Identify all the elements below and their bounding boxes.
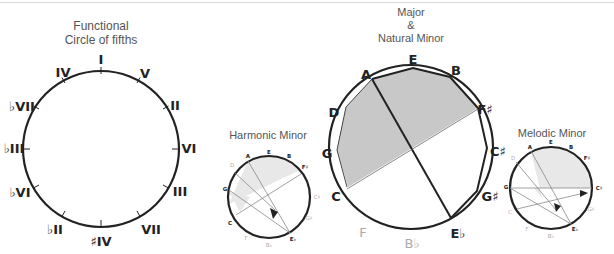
melodic-arrowhead-2	[580, 190, 588, 197]
functional-label-V: V	[140, 66, 150, 81]
functional-label-I: I	[99, 52, 104, 67]
functional-label-sharp-IV: ♯IV	[90, 234, 111, 249]
major-label-B: B	[451, 63, 461, 78]
major-label-C: C	[331, 189, 341, 204]
major-label-F: F	[359, 225, 366, 240]
functional-label-IV: IV	[56, 65, 71, 80]
melodic-label-E: E	[549, 139, 553, 145]
melodic-label-G: G	[504, 184, 509, 190]
major-label-Fsharp: F♯	[477, 102, 492, 117]
harmonic-label-D: D	[230, 162, 234, 168]
functional-circle-diagram: Functional Circle of fifths I V II VI II…	[4, 19, 197, 249]
melodic-label-Csharp: C♯	[596, 185, 603, 191]
major-natural-minor-diagram: Major & Natural Minor E B F♯ C♯ G♯ E♭ B♭…	[322, 6, 506, 251]
major-label-D: D	[329, 105, 340, 120]
harmonic-label-G: G	[223, 186, 228, 192]
major-label-Bflat: B♭	[404, 236, 419, 251]
harmonic-label-A: A	[246, 153, 251, 159]
major-label-Eflat: E♭	[450, 226, 465, 241]
major-label-E: E	[409, 52, 418, 67]
harmonic-minor-diagram: Harmonic Minor E B F♯ C♯ G♯ E♭ B♭ F C G …	[223, 129, 321, 248]
harmonic-label-F: F	[244, 235, 247, 241]
harmonic-label-Bflat: B♭	[266, 242, 273, 248]
major-label-Gsharp: G♯	[482, 189, 499, 204]
major-title-line1: Major	[397, 6, 425, 18]
major-title-line3: Natural Minor	[378, 32, 444, 44]
harmonic-label-Csharp: C♯	[314, 194, 321, 200]
functional-label-flat-VII: ♭VII	[9, 99, 35, 114]
harmonic-label-Gsharp: G♯	[306, 215, 313, 221]
melodic-label-D: D	[511, 155, 515, 161]
melodic-label-Eflat: E♭	[572, 226, 579, 232]
harmonic-label-Eflat: E♭	[290, 236, 297, 242]
functional-label-flat-VI: ♭VI	[9, 185, 30, 200]
functional-label-VI: VI	[182, 141, 197, 156]
major-label-A: A	[361, 67, 371, 82]
major-label-G: G	[322, 146, 333, 161]
major-title-line2: &	[407, 19, 415, 31]
melodic-minor-title: Melodic Minor	[518, 127, 587, 139]
functional-title-line1: Functional	[73, 19, 128, 33]
functional-label-flat-III: ♭III	[4, 141, 25, 156]
melodic-label-Fsharp: F♯	[584, 155, 591, 161]
harmonic-label-E: E	[267, 149, 271, 155]
functional-title-line2: Circle of fifths	[65, 33, 138, 47]
melodic-minor-diagram: Melodic Minor E B F♯ C♯ G♯ E♭ B♭ F C G D…	[504, 127, 603, 239]
major-label-Csharp: C♯	[490, 144, 506, 159]
functional-circle	[23, 71, 179, 227]
functional-label-III: III	[173, 184, 188, 199]
melodic-label-B: B	[569, 144, 573, 150]
melodic-shade	[531, 146, 592, 198]
functional-label-flat-II: ♭II	[47, 222, 63, 237]
functional-label-II: II	[170, 98, 180, 113]
melodic-label-Bflat: B♭	[548, 233, 555, 239]
harmonic-label-Fsharp: F♯	[302, 164, 309, 170]
melodic-label-C: C	[508, 209, 512, 215]
melodic-label-Gsharp: G♯	[588, 206, 595, 212]
circle-diagrams: Functional Circle of fifths I V II VI II…	[0, 0, 614, 254]
harmonic-minor-title: Harmonic Minor	[229, 129, 307, 141]
harmonic-label-B: B	[287, 153, 291, 159]
melodic-label-F: F	[525, 226, 528, 232]
melodic-label-A: A	[528, 144, 533, 150]
harmonic-label-C: C	[228, 220, 232, 226]
functional-label-VII: VII	[141, 222, 161, 237]
